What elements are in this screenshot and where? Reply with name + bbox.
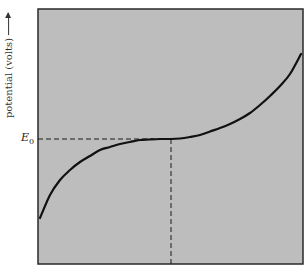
plot-area — [38, 9, 303, 264]
e0-label-sub: 0 — [29, 137, 34, 146]
chart — [0, 0, 304, 272]
arrow-up-icon — [9, 12, 10, 34]
y-axis-label: potential (volts) — [0, 0, 18, 130]
y-axis-label-text: potential (volts) — [4, 37, 15, 117]
e0-label: E0 — [21, 131, 34, 146]
e0-label-main: E — [21, 131, 29, 144]
